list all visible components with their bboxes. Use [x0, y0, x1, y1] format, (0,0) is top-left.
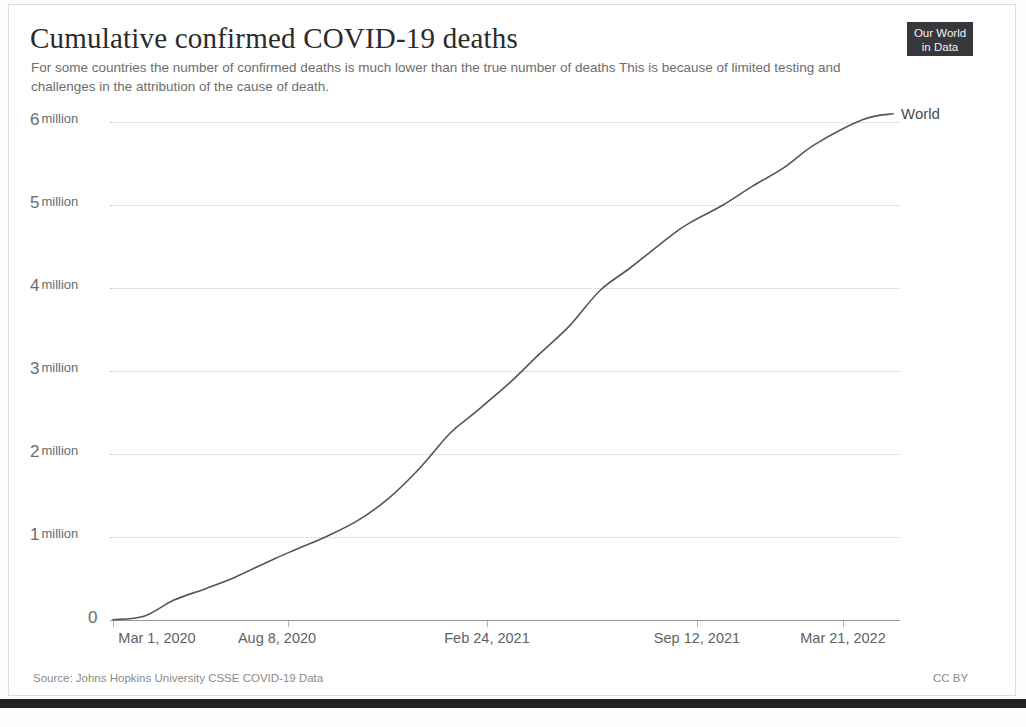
x-tick-label-4: Sep 12, 2021 [654, 630, 740, 646]
gridline-5m [110, 205, 900, 207]
x-tick-mark-4 [697, 621, 698, 627]
gridline-2m [110, 454, 900, 456]
x-tick-label-2: Aug 8, 2020 [238, 630, 316, 646]
x-tick-label-5: Mar 21, 2022 [800, 630, 885, 646]
x-tick-mark-5 [843, 621, 844, 627]
y-tick-number-6: 6 [30, 110, 39, 129]
x-tick-mark-2 [288, 621, 289, 627]
x-tick-label-1: Mar 1, 2020 [118, 630, 195, 646]
license-note[interactable]: CC BY [933, 672, 968, 684]
gridline-1m [110, 537, 900, 539]
page-edge-band [0, 699, 1026, 708]
y-tick-label-5m: 5million [30, 193, 78, 213]
y-tick-number-3: 3 [30, 359, 39, 378]
y-tick-number-4: 4 [30, 276, 39, 295]
y-tick-unit-2: million [41, 443, 78, 458]
y-tick-unit-3: million [41, 360, 78, 375]
chart-plot-area: 6million 5million 4million 3million 2mil… [0, 0, 1026, 700]
y-tick-number-1: 1 [30, 525, 39, 544]
series-label-world: World [901, 105, 940, 122]
y-tick-label-4m: 4million [30, 276, 78, 296]
page-background: Cumulative confirmed COVID-19 deaths For… [0, 0, 1026, 727]
y-tick-unit-6: million [41, 111, 78, 126]
y-tick-label-6m: 6million [30, 110, 78, 130]
x-tick-mark-3 [487, 621, 488, 627]
y-tick-label-0: 0 [88, 608, 97, 628]
y-tick-label-3m: 3million [30, 359, 78, 379]
gridline-6m [110, 122, 900, 124]
y-tick-number-0: 0 [88, 608, 97, 627]
series-line-world [0, 0, 1026, 700]
y-tick-label-1m: 1million [30, 525, 78, 545]
gridline-4m [110, 288, 900, 290]
world-line-path [113, 114, 893, 620]
y-tick-number-5: 5 [30, 193, 39, 212]
source-note: Source: Johns Hopkins University CSSE CO… [33, 672, 323, 684]
y-tick-label-2m: 2million [30, 442, 78, 462]
page-outside-area [0, 708, 1026, 727]
y-tick-unit-1: million [41, 526, 78, 541]
x-axis-line [110, 620, 900, 621]
y-tick-unit-5: million [41, 194, 78, 209]
y-tick-unit-4: million [41, 277, 78, 292]
x-tick-label-3: Feb 24, 2021 [444, 630, 529, 646]
y-tick-number-2: 2 [30, 442, 39, 461]
x-tick-mark-1 [113, 621, 114, 627]
gridline-3m [110, 371, 900, 373]
